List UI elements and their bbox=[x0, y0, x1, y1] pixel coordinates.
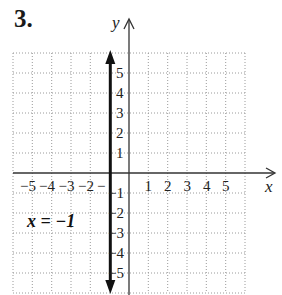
x-axis-label: x bbox=[264, 177, 273, 196]
y-tick-label: −2 bbox=[108, 205, 124, 221]
y-tick-label: 5 bbox=[116, 65, 124, 81]
y-tick-label: 2 bbox=[116, 125, 124, 141]
y-tick-label: −5 bbox=[108, 265, 124, 281]
y-tick-label: −4 bbox=[108, 245, 124, 261]
x-axis bbox=[13, 168, 275, 178]
line-arrow-up-icon bbox=[105, 50, 115, 64]
y-axis bbox=[124, 19, 134, 295]
x-tick-label: 4 bbox=[203, 178, 211, 194]
x-tick-label: 2 bbox=[164, 178, 172, 194]
y-tick-label: 3 bbox=[116, 105, 124, 121]
x-tick-label: −5 bbox=[20, 178, 36, 194]
x-tick-label: − bbox=[97, 178, 105, 194]
x-tick-label: −4 bbox=[39, 178, 55, 194]
y-tick-label: 1 bbox=[116, 145, 124, 161]
equation-label: x = −1 bbox=[26, 211, 75, 231]
x-tick-label: 1 bbox=[145, 178, 153, 194]
y-tick-label: −3 bbox=[108, 225, 124, 241]
y-tick-label: 4 bbox=[116, 85, 124, 101]
coordinate-plane: y x −5 −4 −3 −2 − 1 2 3 4 5 5 4 3 2 1 −1… bbox=[0, 0, 282, 295]
x-tick-label: 3 bbox=[184, 178, 192, 194]
line-arrow-down-icon bbox=[105, 280, 115, 294]
x-tick-label: 5 bbox=[222, 178, 230, 194]
x-tick-label: −2 bbox=[78, 178, 94, 194]
x-tick-label: −3 bbox=[59, 178, 75, 194]
equation-text: x = −1 bbox=[26, 211, 75, 231]
y-tick-label: −1 bbox=[108, 185, 124, 201]
y-axis-label: y bbox=[110, 13, 120, 32]
